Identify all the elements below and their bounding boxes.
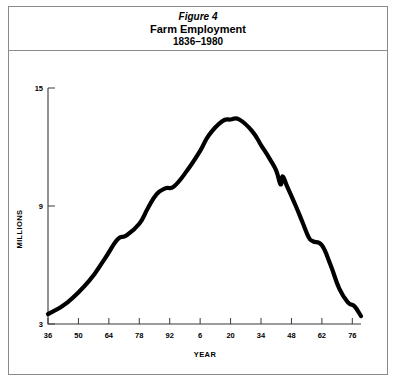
x-tick-label: 20 <box>226 331 234 340</box>
y-tick-label: 3 <box>39 320 43 329</box>
x-tick-label: 62 <box>318 331 326 340</box>
figure-frame: Figure 4 Farm Employment 1836–1980 1593 … <box>8 6 388 375</box>
x-tick-label: 78 <box>135 331 143 340</box>
axes-group <box>48 88 361 324</box>
x-tick-label: 50 <box>74 331 82 340</box>
x-axis-ticks <box>48 318 352 324</box>
x-tick-label: 76 <box>348 331 356 340</box>
x-tick-label: 34 <box>257 331 266 340</box>
axis-lines <box>48 88 361 324</box>
y-tick-label: 9 <box>39 202 43 211</box>
x-tick-label: 6 <box>198 331 202 340</box>
plot-area: 1593 365064789262034486276 MILLIONS YEAR <box>9 51 389 376</box>
y-tick-label: 15 <box>35 84 43 93</box>
farm-employment-series <box>48 118 361 316</box>
x-tick-label: 92 <box>166 331 174 340</box>
y-axis-title: MILLIONS <box>15 209 24 248</box>
y-axis-tick-labels: 1593 <box>35 84 43 329</box>
line-chart: 1593 365064789262034486276 MILLIONS YEAR <box>9 51 389 376</box>
x-tick-label: 48 <box>287 331 295 340</box>
x-axis-title: YEAR <box>194 350 217 359</box>
x-tick-label: 36 <box>44 331 52 340</box>
x-axis-tick-labels: 365064789262034486276 <box>44 331 357 340</box>
figure-number-label: Figure 4 <box>9 11 387 23</box>
y-axis-ticks <box>48 88 55 324</box>
chart-subtitle: 1836–1980 <box>9 36 387 48</box>
title-block: Figure 4 Farm Employment 1836–1980 <box>9 7 387 51</box>
x-tick-label: 64 <box>105 331 114 340</box>
chart-title: Farm Employment <box>9 23 387 36</box>
